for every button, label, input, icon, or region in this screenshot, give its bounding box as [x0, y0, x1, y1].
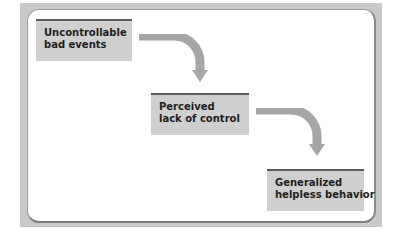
step-uncontrollable-bad-events: Uncontrollable bad events [36, 19, 132, 61]
step-label-line2: lack of control [159, 113, 249, 125]
step-label-line2: helpless behavior [275, 189, 364, 201]
curved-arrow-down-icon [138, 34, 210, 86]
step-label-line1: Generalized [275, 177, 364, 189]
step-label-line2: bad events [44, 39, 132, 51]
step-generalized-helpless-behavior: Generalized helpless behavior [267, 169, 364, 211]
step-label-line1: Uncontrollable [44, 27, 132, 39]
step-perceived-lack-of-control: Perceived lack of control [151, 93, 249, 135]
step-label-line1: Perceived [159, 101, 249, 113]
curved-arrow-down-icon [255, 108, 327, 160]
